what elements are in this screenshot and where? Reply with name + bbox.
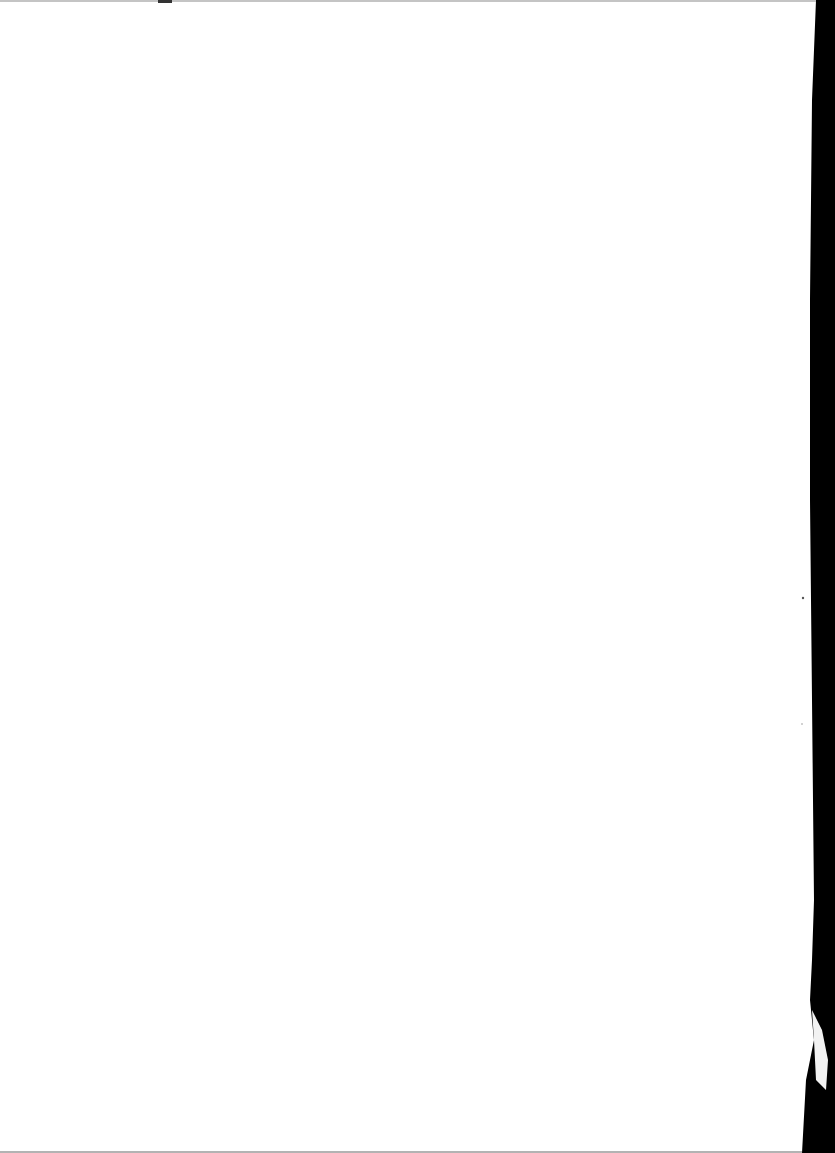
scan-edges [0,0,835,1153]
speck [801,723,803,725]
blank-scanned-page [0,0,835,1153]
right-dark-edge [802,0,835,1153]
top-edge-mark [158,0,172,3]
speck [802,597,804,599]
